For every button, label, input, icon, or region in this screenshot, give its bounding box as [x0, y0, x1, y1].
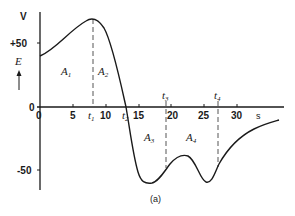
y-axis-unit: V: [20, 11, 27, 22]
x-tick-label-0: 0: [36, 110, 42, 121]
y-tick-label-plus50: +50: [10, 38, 27, 49]
chart: V +50 0 -50 E 0 5 10 15 20 25 30 s t1 t2…: [0, 0, 295, 216]
x-tick-label-10: 10: [100, 110, 112, 121]
y-tick-label-0: 0: [29, 102, 35, 113]
x-axis-unit: s: [256, 111, 261, 121]
region-a1: A1: [60, 65, 71, 79]
figure-caption: (a): [150, 194, 161, 204]
e-label: E: [14, 55, 22, 67]
marker-t3: t3: [162, 89, 169, 103]
x-tick-label-15: 15: [133, 110, 145, 121]
x-tick-label-5: 5: [70, 110, 76, 121]
x-tick-label-25: 25: [198, 110, 210, 121]
voltage-curve: [40, 19, 279, 183]
y-tick-label-minus50: -50: [17, 165, 32, 176]
x-tick-label-20: 20: [167, 110, 179, 121]
marker-lines: [93, 19, 218, 168]
region-a2: A2: [97, 65, 109, 79]
marker-t1: t1: [88, 109, 95, 123]
x-tick-label-30: 30: [231, 110, 243, 121]
region-a4: A4: [185, 131, 197, 145]
region-a3: A3: [143, 131, 155, 145]
marker-t4: t4: [214, 89, 221, 103]
